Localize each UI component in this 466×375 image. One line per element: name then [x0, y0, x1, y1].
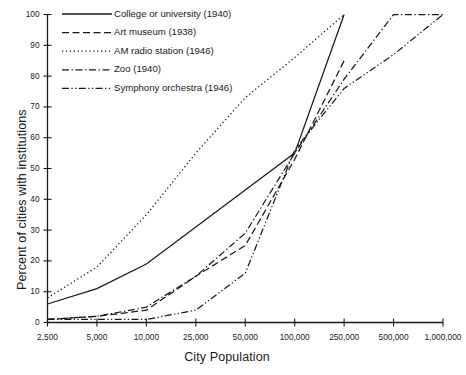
legend-sample-lines — [62, 14, 112, 88]
legend-entry-label-3: Zoo (1940) — [114, 63, 161, 74]
x-tick-label: 1,000,000 — [413, 332, 466, 342]
x-axis-title: City Population — [0, 350, 454, 364]
y-tick-label: 100 — [14, 9, 40, 19]
series-line-3 — [48, 15, 444, 320]
series-line-1 — [48, 61, 345, 320]
series-line-4 — [48, 15, 444, 320]
y-tick-label: 90 — [14, 40, 40, 50]
legend-entry-label-2: AM radio station (1946) — [114, 45, 214, 56]
y-axis-title: Percent of cities with institutions — [15, 109, 29, 290]
y-tick-label: 0 — [14, 317, 40, 327]
legend-entry-label-4: Symphony orchestra (1946) — [114, 82, 232, 93]
series-line-0 — [48, 15, 345, 305]
data-series-group — [48, 15, 444, 320]
y-tick-label: 80 — [14, 71, 40, 81]
legend-entry-label-1: Art museum (1938) — [114, 26, 196, 37]
series-line-2 — [48, 15, 345, 298]
legend-entry-label-0: College or university (1940) — [114, 8, 231, 19]
axis-ticks — [44, 15, 444, 327]
